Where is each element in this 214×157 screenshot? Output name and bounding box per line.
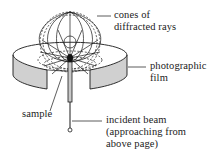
sample-leader xyxy=(50,76,62,111)
label-cones-line2: diffracted rays xyxy=(114,21,176,33)
label-beam-line1: incident beam xyxy=(106,114,167,126)
sample xyxy=(67,54,73,62)
incident-beam xyxy=(68,62,72,132)
label-beam-line2: (approaching from xyxy=(106,126,186,138)
diffraction-diagram: cones of diffracted rays photographic fi… xyxy=(0,0,214,157)
label-beam-line3: above page) xyxy=(106,138,158,150)
label-sample: sample xyxy=(22,108,52,120)
label-film-line2: film xyxy=(150,72,168,84)
label-film-line1: photographic xyxy=(150,60,207,72)
label-cones-line1: cones of xyxy=(114,9,150,21)
